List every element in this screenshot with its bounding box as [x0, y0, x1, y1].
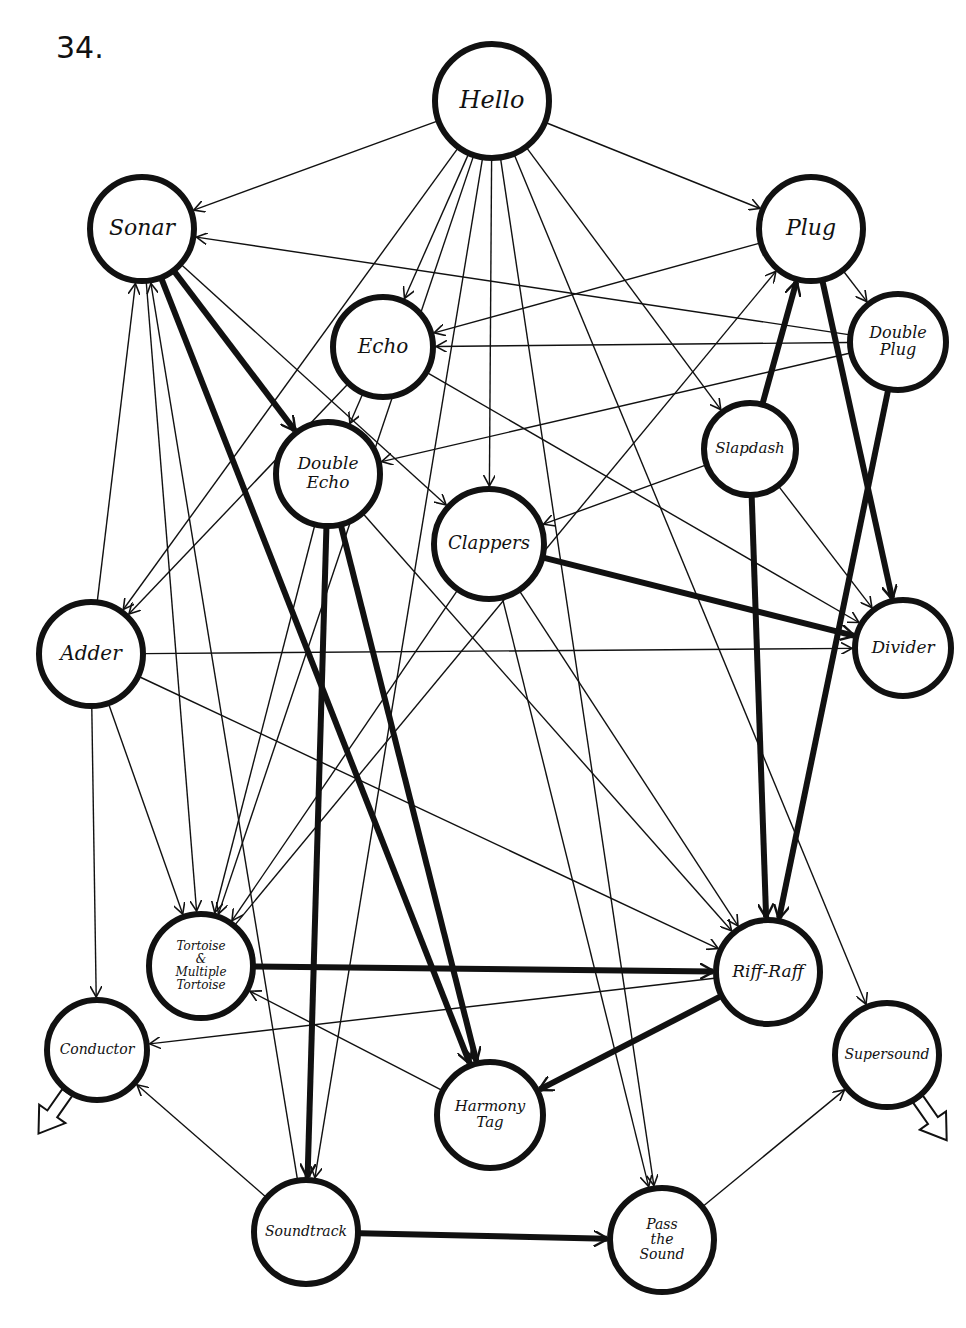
- edge-hello-to-sonar: [194, 121, 437, 210]
- node-label: Harmony: [454, 1097, 526, 1115]
- node-label: Hello: [459, 86, 525, 114]
- edge-adder-to-divider: [145, 648, 852, 653]
- node-soundtrack: Soundtrack: [254, 1180, 358, 1284]
- node-label: Echo: [357, 334, 409, 358]
- node-clappers: Clappers: [434, 489, 544, 599]
- node-label: Tortoise: [176, 939, 225, 953]
- edge-slapdash-to-riff-raff: [752, 497, 766, 917]
- node-label: Multiple: [174, 965, 226, 979]
- node-label: Clappers: [448, 532, 530, 553]
- edge-soundtrack-to-sonar: [151, 283, 297, 1178]
- edge-adder-to-riff-raff: [140, 677, 718, 949]
- edge-soundtrack-to-conductor: [137, 1085, 265, 1197]
- edge-adder-to-sonar: [97, 284, 135, 601]
- edge-adder-to-conductor: [92, 708, 96, 997]
- node-slapdash: Slapdash: [704, 403, 796, 495]
- edge-tortoise-to-riff-raff: [255, 967, 713, 972]
- node-label: Plug: [879, 340, 916, 359]
- edge-sonar-to-tortoise: [146, 283, 196, 911]
- node-echo: Echo: [333, 297, 433, 397]
- flow-diagram: HelloSonarPlugEchoDoublePlugSlapdashDoub…: [0, 0, 966, 1328]
- edge-slapdash-to-clappers: [544, 465, 705, 524]
- edge-hello-to-slapdash: [527, 148, 721, 409]
- node-label: Sound: [639, 1246, 684, 1262]
- node-adder: Adder: [39, 602, 143, 706]
- node-label: Conductor: [60, 1041, 136, 1057]
- edge-double-echo-to-soundtrack: [308, 528, 327, 1177]
- node-label: Sonar: [109, 215, 177, 240]
- node-label: Double: [868, 323, 927, 342]
- node-label: Plug: [785, 215, 836, 240]
- edge-double-plug-to-sonar: [196, 237, 848, 335]
- node-label: Adder: [58, 641, 123, 665]
- node-conductor: Conductor: [47, 1000, 147, 1100]
- node-label: Tortoise: [176, 978, 225, 992]
- node-label: Pass: [645, 1216, 678, 1232]
- node-riff-raff: Riff-Raff: [716, 920, 820, 1024]
- node-sonar: Sonar: [90, 177, 194, 281]
- edge-harmony-tag-to-tortoise: [250, 991, 441, 1090]
- edge-clappers-to-tortoise: [232, 591, 457, 921]
- node-label: Double: [296, 453, 358, 473]
- node-label: Soundtrack: [265, 1223, 347, 1239]
- edge-hello-to-pass-the-sound: [501, 159, 654, 1185]
- edge-slapdash-to-plug: [763, 282, 797, 403]
- node-plug: Plug: [759, 177, 863, 281]
- node-tortoise: Tortoise&MultipleTortoise: [149, 914, 253, 1018]
- edge-hello-to-plug: [547, 123, 760, 209]
- node-label: the: [651, 1231, 674, 1247]
- edge-double-plug-to-echo: [436, 343, 848, 347]
- node-hello: Hello: [435, 44, 549, 158]
- nodes-layer: HelloSonarPlugEchoDoublePlugSlapdashDoub…: [39, 44, 951, 1292]
- node-pass-the-sound: PasstheSound: [610, 1188, 714, 1292]
- node-label: Slapdash: [715, 439, 785, 457]
- node-label: &: [196, 952, 207, 966]
- edge-pass-the-sound-to-supersound: [704, 1090, 845, 1206]
- edge-plug-to-echo: [434, 243, 759, 333]
- node-label: Supersound: [844, 1046, 929, 1062]
- edge-adder-to-tortoise: [109, 705, 183, 914]
- node-harmony-tag: HarmonyTag: [437, 1062, 543, 1168]
- edge-clappers-to-riff-raff: [520, 592, 738, 926]
- node-label: Echo: [305, 472, 349, 492]
- node-divider: Divider: [855, 600, 951, 696]
- node-double-echo: DoubleEcho: [276, 422, 380, 526]
- node-label: Divider: [870, 637, 935, 657]
- edge-echo-to-double-echo: [350, 395, 362, 424]
- node-label: Tag: [476, 1113, 503, 1131]
- node-double-plug: DoublePlug: [850, 294, 946, 390]
- edge-riff-raff-to-harmony-tag: [540, 997, 720, 1090]
- edge-soundtrack-to-pass-the-sound: [360, 1233, 607, 1239]
- node-label: Riff-Raff: [731, 961, 806, 981]
- node-supersound: Supersound: [835, 1003, 939, 1107]
- edge-plug-to-double-plug: [844, 272, 867, 302]
- edge-clappers-to-divider: [544, 558, 853, 636]
